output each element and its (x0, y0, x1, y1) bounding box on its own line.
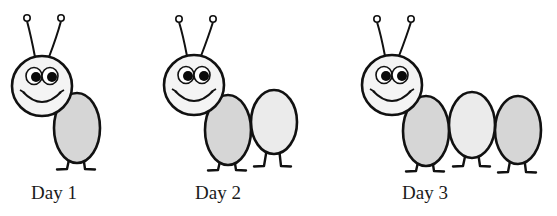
antenna-tip (210, 16, 216, 22)
head (362, 55, 422, 115)
pupil (199, 71, 209, 81)
antenna (49, 21, 61, 57)
pupil (397, 71, 407, 81)
body-segment (495, 96, 541, 173)
antenna (201, 22, 213, 56)
body-segment (251, 90, 297, 167)
antenna-tip (408, 16, 414, 22)
head (12, 56, 72, 116)
pupil (47, 72, 57, 82)
body-segment-oval (251, 90, 297, 154)
caterpillar-day-2 (164, 16, 297, 171)
caterpillar-growth-illustration (0, 0, 557, 216)
antenna (377, 22, 385, 56)
figure-label-day-2: Day 2 (195, 182, 241, 204)
figure-label-day-3: Day 3 (402, 182, 448, 204)
antenna-tip (176, 16, 182, 22)
antenna (179, 22, 187, 56)
body-segment (449, 92, 495, 167)
body-segment-oval (449, 92, 495, 158)
body-segment-oval (495, 96, 541, 164)
antenna-tip (24, 15, 30, 21)
antenna-tip (58, 15, 64, 21)
antenna (399, 22, 411, 56)
caterpillar-day-3 (362, 16, 541, 173)
antenna (27, 21, 35, 57)
figure-label-day-1: Day 1 (31, 182, 77, 204)
pupil (381, 71, 391, 81)
antenna-tip (374, 16, 380, 22)
pupil (183, 71, 193, 81)
head (164, 55, 224, 115)
pupil (31, 72, 41, 82)
caterpillar-day-1 (12, 15, 100, 170)
